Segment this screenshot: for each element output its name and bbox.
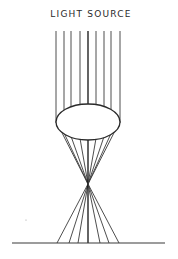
diverging-ray	[88, 184, 119, 243]
diverging-rays	[57, 184, 119, 243]
converging-ray	[80, 138, 88, 184]
converging-ray	[64, 133, 88, 184]
speck	[25, 219, 26, 220]
converging-ray	[88, 138, 96, 184]
diverging-ray	[69, 184, 88, 243]
converging-ray	[71, 136, 88, 184]
converging-ray	[88, 137, 104, 184]
lens-ray-diagram	[0, 0, 178, 259]
convex-lens	[56, 104, 120, 140]
